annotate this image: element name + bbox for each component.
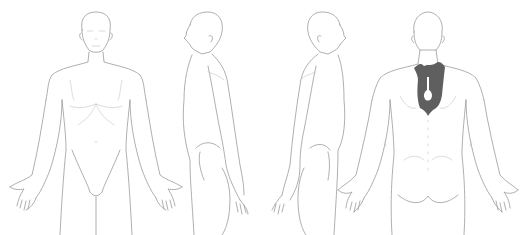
figure-back-view [338, 12, 518, 235]
body-diagram [0, 0, 524, 235]
figure-side-view-left [272, 12, 346, 235]
figure-side-view-right [183, 12, 248, 235]
figure-front-view [10, 12, 182, 235]
